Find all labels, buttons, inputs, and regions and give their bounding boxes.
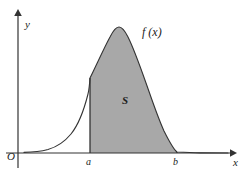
figure-canvas: y x O a b S f (x)	[0, 0, 246, 174]
y-axis-label: y	[25, 19, 30, 30]
y-axis-arrowhead	[14, 9, 22, 16]
x-axis-label: x	[233, 157, 238, 168]
integral-area-figure	[0, 0, 246, 174]
x-tick-label-b: b	[173, 157, 178, 167]
function-curve-label: f (x)	[142, 26, 162, 38]
x-tick-label-a: a	[86, 157, 91, 167]
origin-label: O	[7, 151, 15, 162]
shaded-region-S	[90, 27, 177, 153]
shaded-region-label: S	[122, 95, 128, 106]
